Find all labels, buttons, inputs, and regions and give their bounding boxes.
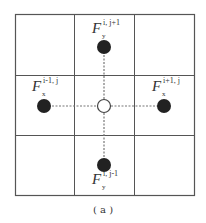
label-right-superscript: i+1, j (163, 76, 180, 85)
label-bottom-symbol: F (92, 171, 101, 187)
label-left-symbol: F (32, 78, 41, 94)
figure-caption: ( a ) (0, 204, 206, 215)
node-left (37, 99, 51, 113)
label-right-symbol: F (152, 78, 161, 94)
node-right (157, 99, 171, 113)
label-bottom-superscript: i, j-1 (103, 169, 118, 178)
label-bottom-subscript: y (102, 183, 106, 191)
label-left: F i-1, j x (32, 77, 41, 95)
label-bottom: F i, j-1 y (92, 170, 101, 188)
label-right-subscript: x (162, 90, 166, 98)
node-center (98, 100, 111, 113)
node-top (97, 40, 111, 54)
label-left-superscript: i-1, j (43, 76, 58, 85)
label-top-subscript: y (102, 32, 106, 40)
label-top-superscript: i, j+1 (103, 18, 120, 27)
label-top: F i, j+1 y (92, 19, 101, 37)
label-left-subscript: x (42, 90, 46, 98)
label-right: F i+1, j x (152, 77, 161, 95)
label-top-symbol: F (92, 20, 101, 36)
